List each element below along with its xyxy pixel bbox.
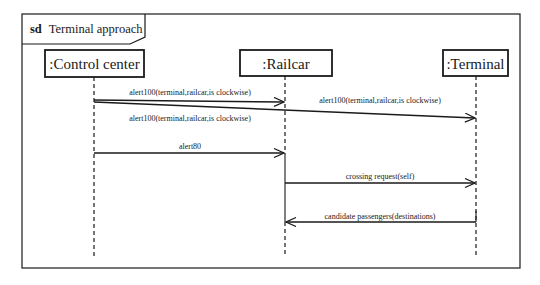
message-crossing-request: crossing request(self) bbox=[285, 172, 475, 183]
frame-title: sd Terminal approach bbox=[30, 22, 143, 36]
message-label: candidate passengers(destinations) bbox=[325, 212, 436, 221]
sequence-diagram: sd Terminal approach :Control center :Ra… bbox=[0, 0, 540, 285]
message-candidate-passengers: candidate passengers(destinations) bbox=[286, 211, 476, 222]
message-alert100-to-railcar: alert100(terminal,railcar,is clockwise) bbox=[94, 88, 284, 102]
sd-frame: sd Terminal approach bbox=[22, 14, 520, 268]
message-label: alert100(terminal,railcar,is clockwise) bbox=[129, 88, 251, 97]
lifeline-label-railcar: :Railcar bbox=[262, 56, 309, 72]
message-label-upper: alert100(terminal,railcar,is clockwise) bbox=[319, 96, 441, 105]
frame-title-text: Terminal approach bbox=[49, 22, 144, 36]
lifeline-terminal: :Terminal bbox=[443, 50, 508, 256]
message-label: crossing request(self) bbox=[346, 172, 415, 181]
message-label: alert80 bbox=[179, 142, 201, 151]
lifeline-label-control-center: :Control center bbox=[49, 56, 139, 72]
lifeline-label-terminal: :Terminal bbox=[446, 56, 504, 72]
frame-border bbox=[22, 14, 520, 268]
message-alert80: alert80 bbox=[94, 142, 284, 153]
frame-keyword: sd bbox=[30, 22, 42, 36]
message-arrow bbox=[94, 100, 284, 102]
message-label: alert100(terminal,railcar,is clockwise) bbox=[129, 114, 251, 123]
